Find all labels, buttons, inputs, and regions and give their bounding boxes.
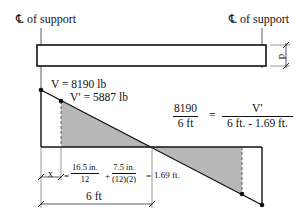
span-label: 6 ft: [86, 191, 102, 203]
v-max-label: V = 8190 lb: [51, 79, 106, 91]
x-label: x: [48, 169, 53, 179]
left-support-label: ℄ of support: [16, 13, 76, 25]
v-max-point: [39, 88, 44, 93]
depth-label: d: [277, 54, 288, 60]
right-support-label: ℄ of support: [229, 13, 289, 25]
beam-elevation: [37, 45, 266, 66]
v-prime-label: V′ = 5887 lb: [70, 92, 128, 104]
v-prime-point: [59, 99, 64, 104]
x-result: 1.69 ft.: [154, 171, 180, 180]
